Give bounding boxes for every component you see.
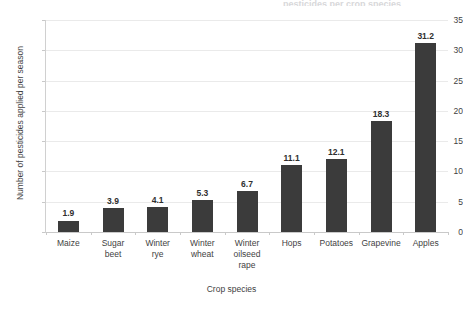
bar-value-label: 12.1 <box>313 147 359 157</box>
bar <box>415 43 436 232</box>
x-tick-label: Apples <box>400 238 452 249</box>
x-tick-mark <box>269 232 270 235</box>
x-tick-mark <box>403 232 404 235</box>
x-axis-title: Crop species <box>0 284 463 294</box>
y-tick-mark <box>42 20 45 21</box>
y-tick-mark <box>42 232 45 233</box>
x-tick-mark <box>448 232 449 235</box>
bar-value-label: 11.1 <box>269 153 315 163</box>
bar <box>371 121 392 232</box>
bar <box>192 200 213 232</box>
x-tick-mark <box>225 232 226 235</box>
y-tick-mark <box>42 81 45 82</box>
bar-value-label: 6.7 <box>224 179 270 189</box>
gridline <box>46 50 448 51</box>
y-tick-mark <box>42 111 45 112</box>
bar-value-label: 18.3 <box>358 109 404 119</box>
bar <box>326 159 347 232</box>
y-tick-mark <box>42 202 45 203</box>
bar <box>281 165 302 232</box>
y-tick-mark <box>42 141 45 142</box>
y-tick-mark <box>42 50 45 51</box>
bar-value-label: 1.9 <box>45 208 91 218</box>
x-tick-mark <box>180 232 181 235</box>
x-tick-mark <box>91 232 92 235</box>
x-tick-label-line: Apples <box>400 238 452 249</box>
x-tick-mark <box>359 232 360 235</box>
x-tick-label-line: oilseed <box>221 249 273 260</box>
y-tick-mark <box>42 171 45 172</box>
bar-value-label: 3.9 <box>90 196 136 206</box>
gridline <box>46 20 448 21</box>
x-axis-line <box>46 232 448 233</box>
x-tick-mark <box>46 232 47 235</box>
bar-value-label: 5.3 <box>179 188 225 198</box>
bar <box>58 221 79 233</box>
x-tick-mark <box>135 232 136 235</box>
bar <box>103 208 124 232</box>
bar <box>237 191 258 232</box>
x-tick-label-line: rape <box>221 260 273 271</box>
bar <box>147 207 168 232</box>
gridline <box>46 81 448 82</box>
chart-title-fragment: pesticides per crop species <box>283 0 423 6</box>
bar-chart: pesticides per crop species Number of pe… <box>0 0 463 310</box>
y-axis-title: Number of pesticides applied per season <box>15 28 25 218</box>
bar-value-label: 4.1 <box>135 195 181 205</box>
x-tick-mark <box>314 232 315 235</box>
bar-value-label: 31.2 <box>403 31 449 41</box>
